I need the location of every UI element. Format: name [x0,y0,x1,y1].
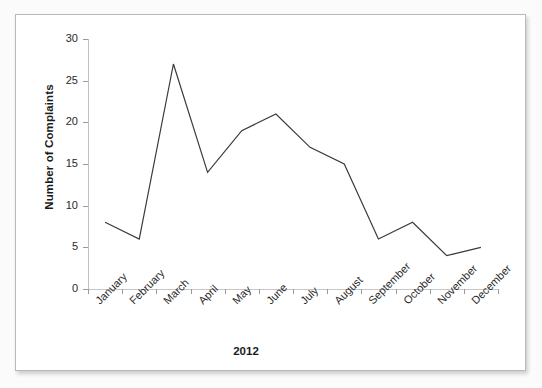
y-tick-label: 15 [66,157,78,169]
chart-card: Number of Complaints 051015202530 Januar… [15,14,526,371]
y-tick-label: 10 [66,199,78,211]
x-tick [156,289,157,294]
y-axis-title: Number of Complaints [43,67,55,227]
x-tick [191,289,192,294]
screenshot-page: Number of Complaints 051015202530 Januar… [0,0,542,388]
y-tick-label: 0 [72,282,78,294]
y-tick-label: 5 [72,240,78,252]
x-tick [259,289,260,294]
x-tick [88,289,89,294]
y-tick-label: 25 [66,74,78,86]
y-tick-label: 30 [66,32,78,44]
x-tick [396,289,397,294]
series-polyline [105,64,481,256]
x-tick [430,289,431,294]
x-tick [464,289,465,294]
x-axis-title: 2012 [16,345,476,357]
x-tick [361,289,362,294]
y-tick-label: 20 [66,115,78,127]
x-tick [498,289,499,294]
line-chart-figure: Number of Complaints 051015202530 Januar… [16,15,525,370]
plot-area: 051015202530 JanuaryFebruaryMarchAprilMa… [88,39,498,289]
x-tick [122,289,123,294]
x-tick [293,289,294,294]
data-series-line [88,39,498,289]
x-tick [327,289,328,294]
x-tick [225,289,226,294]
